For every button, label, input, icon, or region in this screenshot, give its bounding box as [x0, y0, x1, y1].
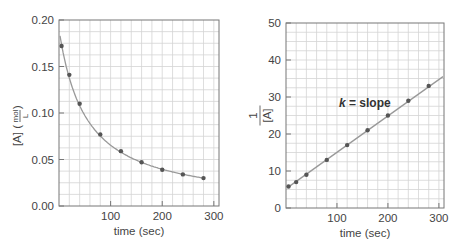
y-axis-label: [A] (molL) — [11, 105, 30, 146]
y-tick-label: 0.00 — [32, 200, 54, 212]
x-tick-label: 300 — [429, 212, 448, 224]
svg-text:mol: mol — [11, 109, 20, 122]
x-tick-label: 100 — [327, 212, 346, 224]
y-tick-label: 40 — [268, 54, 281, 66]
y-tick-label: 10 — [268, 165, 281, 177]
data-point — [325, 158, 329, 162]
y-tick-label: 0 — [275, 202, 281, 214]
y-tick-label: 30 — [268, 91, 281, 103]
data-point — [119, 149, 123, 153]
svg-text:L: L — [21, 113, 30, 118]
y-axis-label: 1[A] — [247, 106, 273, 126]
svg-text:[A] (: [A] ( — [11, 125, 23, 146]
data-point — [77, 102, 81, 106]
data-point — [160, 168, 164, 172]
x-tick-label: 200 — [378, 212, 397, 224]
data-point — [139, 160, 143, 164]
data-point — [98, 132, 102, 136]
slope-annotation: k = slope — [339, 96, 391, 110]
x-tick-label: 200 — [153, 210, 172, 222]
data-point — [386, 113, 390, 117]
y-tick-label: 0.15 — [32, 61, 54, 73]
data-point — [365, 128, 369, 132]
svg-text:1: 1 — [247, 112, 259, 118]
x-tick-label: 100 — [101, 210, 120, 222]
chart-2: 10020030001020304050time (sec)1[A]k = sl… — [247, 17, 448, 239]
y-tick-label: 50 — [268, 17, 281, 29]
grid — [286, 23, 444, 208]
y-tick-label: 0.05 — [32, 154, 54, 166]
x-tick-label: 300 — [204, 210, 223, 222]
svg-text:[A]: [A] — [261, 108, 273, 122]
x-axis-label: time (sec) — [114, 225, 165, 237]
data-point — [345, 143, 349, 147]
data-point — [304, 173, 308, 177]
data-point — [201, 176, 205, 180]
data-point — [286, 184, 290, 188]
y-tick-label: 0.10 — [32, 107, 54, 119]
x-axis-label: time (sec) — [340, 227, 391, 239]
svg-text:): ) — [11, 105, 23, 109]
data-point — [406, 99, 410, 103]
chart-canvas: 1002003000.000.050.100.150.20time (sec)[… — [0, 0, 462, 246]
data-point — [294, 180, 298, 184]
y-tick-label: 0.20 — [32, 14, 54, 26]
data-point — [67, 73, 71, 77]
data-point — [59, 44, 63, 48]
chart-1: 1002003000.000.050.100.150.20time (sec)[… — [11, 14, 223, 237]
data-point — [427, 84, 431, 88]
y-tick-label: 20 — [268, 128, 281, 140]
data-point — [181, 172, 185, 176]
